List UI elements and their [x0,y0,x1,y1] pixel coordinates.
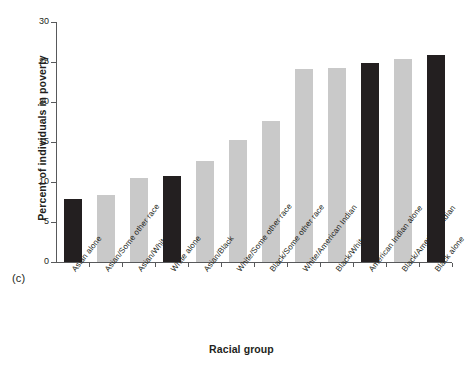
bar [361,63,379,262]
bar [64,199,82,262]
poverty-by-racial-group-chart: (c) Percent of individuals in poverty 05… [0,0,465,370]
y-axis-tick [51,102,56,103]
y-axis-tick [51,262,56,263]
y-axis-tick [51,62,56,63]
x-axis-tick [386,263,387,267]
bar [97,195,115,262]
y-axis-tick-label: 10 [39,176,49,186]
x-axis-tick [221,263,222,267]
y-axis-tick-label: 0 [44,256,49,266]
y-axis-tick-label: 30 [39,16,49,26]
y-axis-tick [51,22,56,23]
x-axis-tick [287,263,288,267]
x-axis-title: Racial group [0,343,465,355]
y-axis-tick-label: 20 [39,96,49,106]
bar [163,176,181,262]
y-axis-tick-label: 5 [44,216,49,226]
x-axis-tick [452,263,453,267]
plot-area: 051015202530 [56,22,452,262]
y-axis-tick-label: 25 [39,56,49,66]
bar [196,161,214,262]
y-axis-line [56,22,57,263]
x-axis-tick [155,263,156,267]
subfigure-label: (c) [12,272,25,284]
x-axis-tick [188,263,189,267]
x-axis-tick [122,263,123,267]
y-axis-tick-label: 15 [39,136,49,146]
y-axis-tick [51,182,56,183]
x-axis-tick [254,263,255,267]
y-axis-tick [51,222,56,223]
x-axis-tick [419,263,420,267]
x-axis-tick [320,263,321,267]
x-axis-tick [353,263,354,267]
y-axis-tick [51,142,56,143]
x-axis-tick [89,263,90,267]
